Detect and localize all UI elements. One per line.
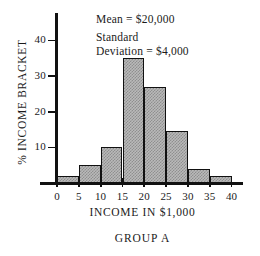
bar-0-5 (57, 176, 79, 183)
bar-25-30 (166, 131, 188, 183)
annotation-sd-line1: Standard (96, 31, 138, 44)
x-axis-label-35: 35 (199, 190, 221, 202)
y-axis-tick-30 (48, 75, 56, 77)
plot-area: 40 30 20 10 0 5 10 15 20 25 30 35 40 Mea… (0, 0, 260, 256)
y-axis-tick-10 (48, 147, 56, 149)
x-axis-label-15: 15 (112, 190, 134, 202)
y-axis-tick-40 (48, 40, 56, 42)
annotation-sd-line2: Deviation = $4,000 (96, 45, 189, 58)
bar-15-20 (123, 58, 145, 183)
histogram-figure: 40 30 20 10 0 5 10 15 20 25 30 35 40 Mea… (0, 0, 260, 256)
bar-10-15 (101, 147, 123, 183)
x-axis-label-40: 40 (221, 190, 243, 202)
bar-30-35 (188, 169, 210, 183)
y-axis-tick-20 (48, 111, 56, 113)
y-axis-title: % INCOME BRACKET (16, 22, 28, 182)
x-axis-label-0: 0 (46, 190, 68, 202)
x-axis-label-10: 10 (90, 190, 112, 202)
bar-35-40 (210, 176, 232, 183)
x-axis-label-25: 25 (155, 190, 177, 202)
x-axis-label-20: 20 (133, 190, 155, 202)
x-axis-label-5: 5 (68, 190, 90, 202)
figure-caption: GROUP A (40, 232, 245, 244)
bar-20-25 (144, 87, 166, 184)
x-axis-label-30: 30 (177, 190, 199, 202)
annotation-mean: Mean = $20,000 (96, 13, 175, 26)
x-axis-title: INCOME IN $1,000 (40, 206, 245, 218)
bar-5-10 (79, 165, 101, 183)
